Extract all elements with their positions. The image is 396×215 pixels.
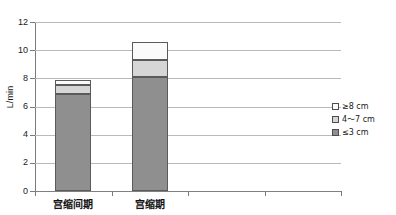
bar-1-segment-3[interactable] [55, 80, 91, 85]
y-tick-mark-2 [30, 163, 35, 164]
y-tick-mark-4 [30, 135, 35, 136]
x-category-label-2: 宫缩期 [105, 196, 195, 211]
legend-item-1[interactable]: ≥8 cm [332, 100, 394, 113]
legend-item-2[interactable]: 4～7 cm [332, 113, 394, 126]
y-tick-mark-10 [30, 50, 35, 51]
y-tick-mark-6 [30, 107, 35, 108]
plot-area [35, 22, 341, 191]
bar-1-segment-2[interactable] [55, 85, 91, 94]
bar-1[interactable] [55, 22, 91, 191]
bar-2-segment-2[interactable] [132, 60, 168, 77]
legend-swatch-icon-1 [332, 103, 339, 110]
legend-item-3[interactable]: ≤3 cm [332, 126, 394, 139]
y-tick-label-8: 8 [0, 74, 28, 83]
y-tick-label-6: 6 [0, 102, 28, 111]
y-tick-label-0: 0 [0, 187, 28, 196]
legend-swatch-icon-2 [332, 116, 339, 123]
x-tick-mark-3 [265, 192, 266, 196]
bar-2-segment-3[interactable] [132, 42, 168, 60]
x-tick-mark-4 [341, 192, 342, 196]
y-tick-label-12: 12 [0, 18, 28, 27]
bar-1-segment-1[interactable] [55, 94, 91, 191]
legend-label-2: 4～7 cm [342, 116, 375, 124]
legend-label-1: ≥8 cm [342, 103, 369, 111]
y-tick-label-2: 2 [0, 158, 28, 167]
bar-2-segment-1[interactable] [132, 77, 168, 191]
y-tick-mark-8 [30, 78, 35, 79]
bar-2[interactable] [132, 22, 168, 191]
stacked-bar-chart: L/min 121086420 宫缩间期宫缩期 ≥8 cm4～7 cm≤3 cm [0, 0, 396, 215]
y-tick-mark-12 [30, 22, 35, 23]
chart-legend: ≥8 cm4～7 cm≤3 cm [332, 100, 394, 139]
legend-swatch-icon-3 [332, 129, 339, 136]
y-tick-label-10: 10 [0, 46, 28, 55]
y-tick-label-4: 4 [0, 130, 28, 139]
legend-label-3: ≤3 cm [342, 129, 369, 137]
